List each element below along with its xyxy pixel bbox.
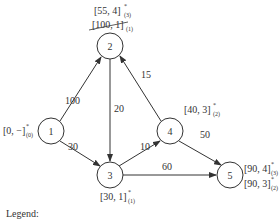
svg-text:*: * bbox=[271, 176, 274, 182]
node-3: 3 bbox=[97, 162, 123, 188]
svg-text:[30, 1]: [30, 1] bbox=[100, 191, 127, 202]
node-1-label: [0, −] * (0) bbox=[3, 123, 33, 139]
edge-weight: 10 bbox=[140, 141, 150, 152]
node-4-label: [40, 3] * (2) bbox=[184, 102, 220, 118]
svg-text:4: 4 bbox=[168, 126, 173, 137]
svg-text:(2): (2) bbox=[271, 185, 278, 192]
edge-1-3 bbox=[60, 141, 100, 166]
svg-text:*: * bbox=[213, 102, 216, 108]
svg-text:(2): (2) bbox=[213, 111, 220, 118]
node-2-label: [55, 4] * (3) [100, 1] (1) bbox=[89, 3, 133, 33]
edge-weight: 15 bbox=[141, 69, 151, 80]
network-diagram: 100 30 20 10 15 50 60 1 2 3 4 5 [0, −] *… bbox=[0, 0, 280, 223]
svg-text:*: * bbox=[271, 161, 274, 167]
svg-text:*: * bbox=[128, 189, 131, 195]
edge-4-2 bbox=[120, 56, 161, 121]
svg-text:3: 3 bbox=[108, 170, 113, 181]
edge-1-2 bbox=[60, 57, 101, 121]
svg-text:(1): (1) bbox=[126, 26, 133, 33]
svg-text:2: 2 bbox=[108, 41, 113, 52]
svg-text:[0, −]: [0, −] bbox=[3, 125, 25, 136]
node-2: 2 bbox=[97, 33, 123, 59]
node-3-label: [30, 1] * (1) bbox=[100, 189, 135, 205]
svg-text:[55, 4]: [55, 4] bbox=[94, 5, 121, 16]
svg-text:(1): (1) bbox=[128, 198, 135, 205]
edge-weight: 20 bbox=[114, 103, 124, 114]
svg-text:5: 5 bbox=[228, 170, 233, 181]
node-1: 1 bbox=[38, 118, 64, 144]
node-5: 5 bbox=[217, 162, 243, 188]
edge-weight: 60 bbox=[162, 161, 172, 172]
svg-text:(0): (0) bbox=[26, 132, 33, 139]
node-4: 4 bbox=[157, 118, 183, 144]
legend-label: Legend: bbox=[6, 208, 39, 219]
edge-weight: 50 bbox=[200, 129, 210, 140]
svg-text:1: 1 bbox=[49, 126, 54, 137]
svg-text:(3): (3) bbox=[124, 12, 131, 19]
node-5-label: [90, 4] * (3) [90, 3] * (2) bbox=[244, 161, 278, 192]
svg-text:[90, 4]: [90, 4] bbox=[244, 163, 271, 174]
svg-text:*: * bbox=[26, 123, 29, 129]
svg-text:[40, 3]: [40, 3] bbox=[184, 104, 211, 115]
svg-text:*: * bbox=[124, 3, 127, 9]
edge-weight: 100 bbox=[65, 95, 80, 106]
edge-weight: 30 bbox=[68, 141, 78, 152]
svg-text:[90, 3]: [90, 3] bbox=[244, 178, 271, 189]
edge-4-5 bbox=[179, 141, 221, 165]
